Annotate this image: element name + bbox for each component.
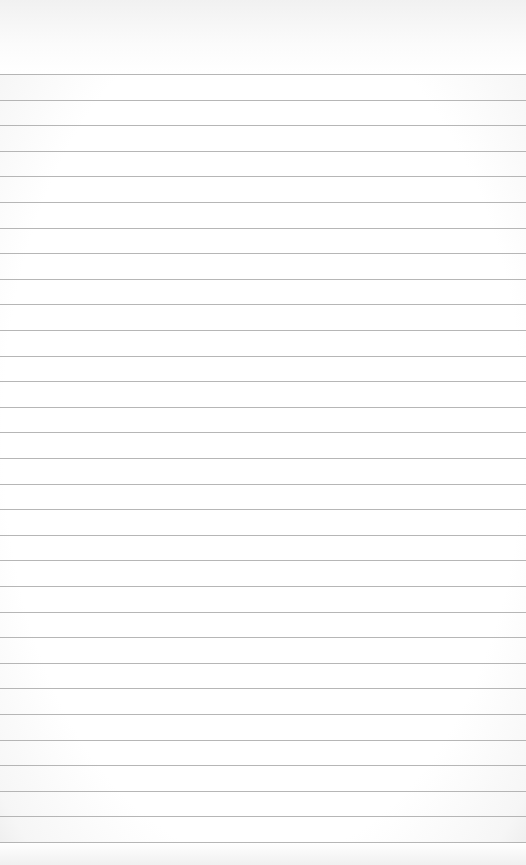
ruled-line [0,407,526,408]
ruled-line [0,74,526,75]
ruled-line [0,484,526,485]
ruled-line [0,740,526,741]
ruled-line [0,791,526,792]
ruled-line [0,765,526,766]
ruled-line [0,714,526,715]
ruled-line [0,509,526,510]
ruled-line [0,688,526,689]
ruled-line [0,381,526,382]
ruled-line [0,535,526,536]
ruled-line [0,432,526,433]
ruled-line [0,151,526,152]
ruled-line [0,612,526,613]
ruled-line [0,228,526,229]
ruled-line [0,125,526,126]
ruled-line [0,560,526,561]
ruled-line [0,663,526,664]
ruled-line [0,330,526,331]
top-margin [0,0,526,74]
ruled-line [0,279,526,280]
ruled-paper-sheet [0,0,526,865]
ruled-line [0,100,526,101]
ruled-line [0,816,526,817]
ruled-line [0,586,526,587]
ruled-line [0,176,526,177]
ruled-line [0,458,526,459]
ruled-line [0,253,526,254]
ruled-line [0,356,526,357]
ruled-line [0,202,526,203]
ruled-line [0,637,526,638]
bottom-margin [0,843,526,865]
ruled-line [0,304,526,305]
